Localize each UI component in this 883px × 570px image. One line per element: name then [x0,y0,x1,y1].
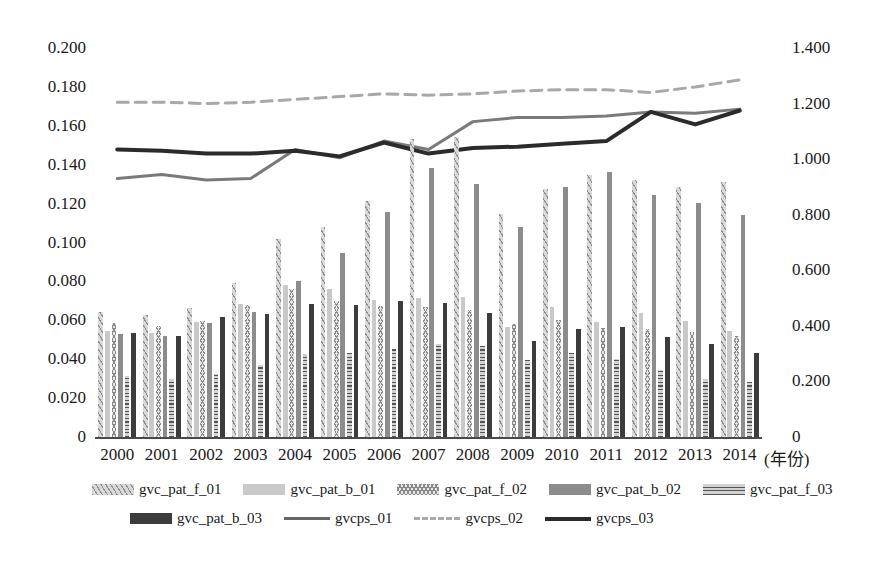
y-right-tick-6: 1.200 [792,95,872,112]
bar-group-2014 [718,48,762,437]
bar-group-2009 [495,48,539,437]
legend-item-gvc_pat_b_03[interactable]: gvc_pat_b_03 [130,510,262,527]
bar-group-2012 [629,48,673,437]
bar-group-2013 [673,48,717,437]
y-left-tick-10: 0.200 [16,39,86,56]
legend-item-gvcps_02[interactable]: gvcps_02 [414,510,523,527]
x-tick-2010: 2010 [540,445,584,465]
bar-gvc_pat_b_03-2013 [709,344,714,437]
y-left-tick-3: 0.060 [16,311,86,328]
x-tick-2005: 2005 [317,445,361,465]
bar-gvc_pat_b_01-2010 [550,307,555,437]
legend-label-gvc_pat_f_02: gvc_pat_f_02 [444,481,526,498]
y-left-tick-5: 0.100 [16,234,86,251]
bar-gvc_pat_b_03-2005 [354,305,359,437]
x-axis-line [95,437,762,439]
bar-group-2006 [362,48,406,437]
bar-group-2008 [451,48,495,437]
legend-item-gvcps_03[interactable]: gvcps_03 [545,510,654,527]
bar-group-2003 [228,48,272,437]
bar-gvc_pat_b_03-2003 [265,314,270,438]
bar-gvc_pat_b_01-2003 [238,304,243,437]
y-left-tick-8: 0.160 [16,117,86,134]
bar-gvc_pat_b_03-2012 [665,337,670,437]
bar-gvc_pat_f_03-2013 [703,379,708,437]
bar-gvc_pat_b_03-2007 [443,303,448,437]
x-tick-2013: 2013 [673,445,717,465]
bar-gvc_pat_b_01-2011 [594,322,599,437]
bar-gvc_pat_f_02-2012 [645,329,650,437]
bar-gvc_pat_f_01-2009 [499,214,504,437]
bar-gvc_pat_b_01-2000 [105,331,110,437]
x-axis-tick-labels: 2000200120022003200420052006200720082009… [95,445,762,465]
bar-gvc_pat_b_02-2012 [652,195,657,437]
bar-gvc_pat_f_02-2011 [601,328,606,437]
bar-gvc_pat_b_02-2005 [340,253,345,437]
x-tick-2002: 2002 [184,445,228,465]
legend-swatch-gvcps_01 [284,517,330,520]
bar-gvc_pat_b_03-2002 [220,317,225,437]
bar-gvc_pat_b_01-2009 [505,327,510,437]
bar-gvc_pat_f_02-2004 [289,289,294,437]
plot-area [95,48,762,437]
bar-gvc_pat_b_02-2013 [696,203,701,437]
legend-swatch-gvc_pat_f_02 [397,484,439,495]
bar-gvc_pat_f_01-2004 [276,239,281,437]
legend-swatch-gvc_pat_b_01 [243,484,285,495]
bar-gvc_pat_b_02-2007 [429,168,434,437]
bar-gvc_pat_b_01-2012 [639,313,644,437]
bar-gvc_pat_f_01-2010 [543,189,548,437]
chart-root: { "chart_data": { "type": "bar", "title"… [0,0,883,570]
bar-gvc_pat_b_03-2009 [532,341,537,437]
bar-gvc_pat_f_01-2012 [632,180,637,437]
legend-swatch-gvc_pat_f_03 [703,484,745,495]
bar-gvc_pat_f_01-2005 [321,227,326,437]
bar-gvc_pat_b_02-2002 [207,323,212,437]
bar-gvc_pat_b_02-2008 [474,184,479,437]
legend-item-gvc_pat_f_02[interactable]: gvc_pat_f_02 [397,481,526,498]
bar-gvc_pat_f_01-2014 [721,182,726,437]
x-tick-2006: 2006 [362,445,406,465]
legend-swatch-gvc_pat_b_02 [549,484,591,495]
legend-item-gvc_pat_f_01[interactable]: gvc_pat_f_01 [92,481,221,498]
bar-group-2004 [273,48,317,437]
y-left-tick-6: 0.120 [16,195,86,212]
y-left-tick-2: 0.040 [16,350,86,367]
bar-gvc_pat_f_03-2002 [214,374,219,437]
bar-gvc_pat_f_02-2005 [334,301,339,437]
y-right-tick-1: 0.200 [792,372,872,389]
bar-gvc_pat_b_02-2000 [118,334,123,437]
bar-gvc_pat_f_02-2014 [734,336,739,437]
bar-gvc_pat_f_03-2012 [658,370,663,437]
legend-item-gvc_pat_f_03[interactable]: gvc_pat_f_03 [703,481,832,498]
bar-gvc_pat_f_03-2011 [614,359,619,437]
legend-item-gvc_pat_b_01[interactable]: gvc_pat_b_01 [243,481,375,498]
x-tick-2014: 2014 [717,445,761,465]
bar-gvc_pat_b_03-2008 [487,313,492,437]
legend-row-1: gvc_pat_b_03gvcps_01gvcps_02gvcps_03 [130,510,675,527]
bar-gvc_pat_f_03-2010 [569,353,574,437]
bar-gvc_pat_b_01-2004 [283,285,288,437]
legend-label-gvc_pat_b_01: gvc_pat_b_01 [290,481,375,498]
legend-swatch-gvcps_03 [545,517,591,521]
x-tick-2012: 2012 [628,445,672,465]
bar-gvc_pat_f_02-2008 [467,310,472,437]
bar-group-2010 [540,48,584,437]
legend-swatch-gvcps_02 [414,517,460,520]
legend-label-gvcps_03: gvcps_03 [596,510,654,527]
y-left-tick-1: 0.020 [16,389,86,406]
y-left-tick-4: 0.080 [16,272,86,289]
bar-group-2000 [95,48,139,437]
bar-gvc_pat_f_01-2000 [98,312,103,437]
legend-label-gvc_pat_f_01: gvc_pat_f_01 [139,481,221,498]
bar-group-2005 [317,48,361,437]
legend-item-gvcps_01[interactable]: gvcps_01 [284,510,393,527]
legend-item-gvc_pat_b_02[interactable]: gvc_pat_b_02 [549,481,681,498]
bar-gvc_pat_b_03-2000 [131,333,136,437]
bar-gvc_pat_b_01-2002 [194,322,199,437]
bar-gvc_pat_b_01-2001 [149,333,154,437]
bar-gvc_pat_b_02-2004 [296,281,301,437]
bar-gvc_pat_f_01-2001 [143,315,148,437]
bar-gvc_pat_f_03-2004 [303,354,308,437]
y-right-tick-7: 1.400 [792,39,872,56]
